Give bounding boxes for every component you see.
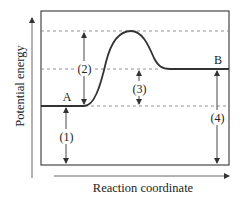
interval-1-label: (1) [60,130,74,144]
energy-diagram: (2) (3) (1) (4) A B Potential energy Rea… [0,0,252,202]
y-axis-label: Potential energy [13,45,27,127]
interval-3-label: (3) [133,82,147,96]
state-a-label: A [63,90,72,104]
x-axis-label: Reaction coordinate [93,181,194,195]
state-b-label: B [214,53,222,67]
interval-2-label: (2) [78,62,92,76]
interval-4-label: (4) [211,111,225,125]
